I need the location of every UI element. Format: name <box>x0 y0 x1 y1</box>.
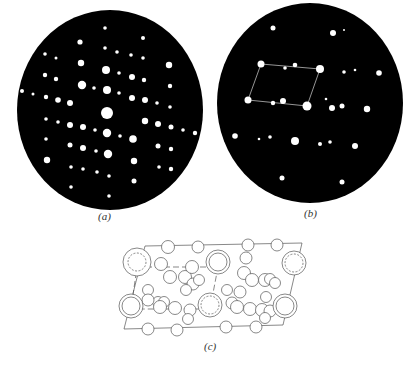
diffraction-spot <box>80 145 86 151</box>
diffraction-spot <box>104 150 112 158</box>
caption-a: (a) <box>98 210 111 222</box>
diffraction-spot <box>169 147 173 151</box>
diffraction-spot <box>169 125 174 130</box>
atom-circle <box>164 271 177 284</box>
diffraction-spot <box>157 165 161 169</box>
diffraction-spot <box>181 128 185 132</box>
large-atom-outer-ring <box>206 250 230 274</box>
diffraction-spot <box>68 143 73 148</box>
diffraction-spot <box>117 71 121 75</box>
diffraction-spot <box>78 60 84 66</box>
diffraction-spot <box>155 101 159 105</box>
atom-circle <box>142 294 154 306</box>
atom-circle <box>244 303 257 316</box>
diffraction-spot <box>340 104 345 109</box>
diffraction-spot <box>80 124 86 130</box>
panel-a-diffraction-pattern <box>17 10 203 210</box>
diffraction-spot <box>340 180 345 185</box>
large-atom-outer-ring <box>273 294 297 318</box>
diffraction-spot <box>43 73 47 77</box>
large-atom-outer-ring <box>123 248 151 276</box>
atom-circle <box>155 258 168 271</box>
diffraction-spot <box>330 30 336 36</box>
atom-circle <box>261 292 272 303</box>
diffraction-spot <box>69 165 73 169</box>
atom-circle <box>186 261 199 274</box>
panel-b-diffraction-pattern <box>217 3 403 203</box>
diffraction-spot <box>329 105 335 111</box>
diffraction-spot <box>44 137 48 141</box>
diffraction-spot <box>129 95 135 101</box>
diffraction-spot <box>95 170 99 174</box>
diffraction-spot <box>354 69 357 72</box>
diffraction-spot <box>142 118 148 124</box>
diffraction-spot <box>268 135 272 139</box>
diffraction-spot <box>343 29 345 31</box>
atom-circle <box>162 241 175 254</box>
diffraction-spot <box>101 107 113 119</box>
caption-b: (b) <box>304 207 317 219</box>
figure: (a) (b) (c) <box>0 0 420 371</box>
diffraction-spot <box>156 144 161 149</box>
diffraction-spot <box>67 122 73 128</box>
diffraction-spot <box>352 143 358 149</box>
atom-circle <box>154 301 167 314</box>
diffraction-spot <box>271 101 275 105</box>
diffraction-spot <box>376 70 382 76</box>
diffraction-spot <box>118 134 122 138</box>
diffraction-spot <box>142 78 146 82</box>
diffraction-spot <box>303 102 312 111</box>
diffraction-spot <box>44 117 48 121</box>
diffraction-spot <box>141 36 145 40</box>
atom-circle <box>192 241 204 253</box>
diffraction-spot <box>364 106 370 112</box>
atom-circle <box>142 323 154 335</box>
diffraction-spot <box>103 86 111 94</box>
diffraction-spot <box>168 84 172 88</box>
diffraction-spot <box>258 61 265 68</box>
atom-circle <box>222 285 233 296</box>
diffraction-spot <box>56 120 60 124</box>
diffraction-spot <box>107 174 111 178</box>
diffraction-spot <box>318 142 322 146</box>
diffraction-spot <box>129 53 133 57</box>
diffraction-spot <box>232 133 238 139</box>
diffraction-spot <box>67 100 73 106</box>
diffraction-spot <box>328 140 332 144</box>
diffraction-spot <box>107 194 111 198</box>
atom-circle <box>220 321 232 333</box>
diffraction-spot <box>43 52 47 56</box>
diffraction-spot <box>342 70 346 74</box>
diffraction-spot <box>92 86 96 90</box>
diffraction-spot <box>102 66 110 74</box>
diffraction-spot <box>77 39 82 44</box>
diffraction-spot <box>283 66 287 70</box>
atom-circle <box>240 252 252 264</box>
diffraction-spot <box>103 129 111 137</box>
panel-c-crystal-structure <box>119 239 306 336</box>
atom-circle <box>246 274 259 287</box>
diffraction-spot <box>81 167 85 171</box>
diffraction-spot <box>103 46 107 50</box>
diffraction-spot <box>117 91 121 95</box>
atom-circle <box>181 285 192 296</box>
diffraction-spot <box>166 62 172 68</box>
diffraction-spot <box>280 98 286 104</box>
diffraction-spot <box>316 65 324 73</box>
diffraction-spot <box>94 149 98 153</box>
diffraction-spot <box>325 98 328 101</box>
diffraction-spot <box>293 63 298 68</box>
diffraction-spot <box>193 131 197 135</box>
diffraction-spot <box>44 95 48 99</box>
diffraction-spot <box>245 97 252 104</box>
diffraction-spot <box>155 121 161 127</box>
diffraction-spot <box>32 93 35 96</box>
diffraction-spot <box>78 81 86 89</box>
atom-circle <box>270 278 281 289</box>
atom-circle <box>194 275 205 286</box>
diffraction-spot <box>129 135 137 143</box>
atom-circle <box>171 324 183 336</box>
atom-circle <box>169 302 182 315</box>
diffraction-spot <box>271 26 276 31</box>
diffraction-spot <box>280 176 285 181</box>
